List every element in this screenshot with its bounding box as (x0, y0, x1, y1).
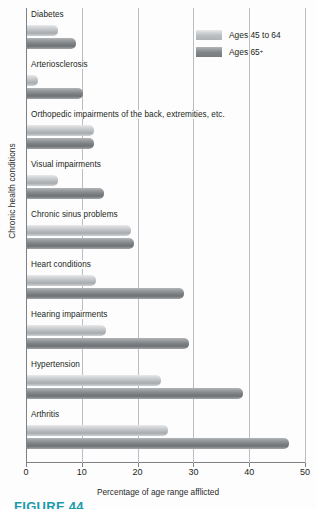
legend-label-ages-65-plus-sup: + (260, 48, 264, 54)
x-tick-label-0: 0 (23, 467, 28, 477)
bar-ages-65-plus (27, 138, 94, 149)
chart-legend: Ages 45 to 64 Ages 65+ (196, 26, 281, 60)
legend-label-ages-65-plus-main: Ages 65 (229, 47, 260, 57)
bar-ages-65-plus (27, 38, 76, 49)
bar-group: Heart conditions (27, 260, 305, 310)
category-label: Chronic sinus problems (31, 210, 120, 219)
bar-ages-65-plus (27, 88, 83, 99)
bar-ages-45-to-64 (27, 375, 161, 386)
x-tick-label-40: 40 (244, 467, 254, 477)
legend-swatch-icon-ages-45-to-64 (196, 30, 222, 40)
bar-ages-45-to-64 (27, 325, 106, 336)
x-axis-ticks: 01020304050 (26, 463, 305, 479)
bar-ages-45-to-64 (27, 175, 58, 186)
bar-ages-65-plus (27, 438, 289, 449)
bar-ages-65-plus (27, 188, 104, 199)
legend-label-ages-65-plus: Ages 65+ (229, 47, 263, 57)
bar-group: Orthopedic impairments of the back, extr… (27, 110, 305, 160)
x-tick-label-10: 10 (77, 467, 87, 477)
bar-group: Chronic sinus problems (27, 210, 305, 260)
legend-swatch-icon-ages-65-plus (196, 47, 222, 57)
bar-ages-45-to-64 (27, 275, 96, 286)
category-label: Hypertension (31, 360, 82, 369)
bar-ages-45-to-64 (27, 25, 58, 36)
chart-figure: Chronic health conditions DiabetesArteri… (0, 0, 316, 509)
bar-ages-45-to-64 (27, 125, 94, 136)
legend-item-ages-65-plus: Ages 65+ (196, 43, 281, 60)
category-label: Diabetes (31, 10, 66, 19)
x-tick-label-20: 20 (133, 467, 143, 477)
bar-ages-45-to-64 (27, 75, 38, 86)
bar-group: Hypertension (27, 360, 305, 410)
x-axis-title: Percentage of age range afflicted (0, 487, 316, 497)
category-label: Arteriosclerosis (31, 60, 90, 69)
category-label: Heart conditions (31, 260, 93, 269)
x-tick-label-30: 30 (188, 467, 198, 477)
gridline-50 (305, 8, 306, 463)
category-label: Arthritis (31, 410, 61, 419)
bar-ages-65-plus (27, 388, 243, 399)
x-tick-label-50: 50 (300, 467, 310, 477)
bar-ages-65-plus (27, 238, 134, 249)
bar-group: Arthritis (27, 410, 305, 460)
legend-label-ages-45-to-64: Ages 45 to 64 (229, 30, 281, 40)
bar-group: Arteriosclerosis (27, 60, 305, 110)
category-label: Orthopedic impairments of the back, extr… (31, 110, 227, 119)
bar-ages-65-plus (27, 338, 189, 349)
bar-ages-45-to-64 (27, 425, 168, 436)
bar-group: Hearing impairments (27, 310, 305, 360)
figure-caption: FIGURE 44 (14, 500, 84, 509)
bar-ages-45-to-64 (27, 225, 131, 236)
plot-area: DiabetesArteriosclerosisOrthopedic impai… (26, 8, 305, 463)
category-label: Hearing impairments (31, 310, 109, 319)
y-axis-title: Chronic health conditions (7, 116, 17, 266)
bar-group: Visual impairments (27, 160, 305, 210)
legend-item-ages-45-to-64: Ages 45 to 64 (196, 26, 281, 43)
category-label: Visual impairments (31, 160, 103, 169)
bar-ages-65-plus (27, 288, 184, 299)
